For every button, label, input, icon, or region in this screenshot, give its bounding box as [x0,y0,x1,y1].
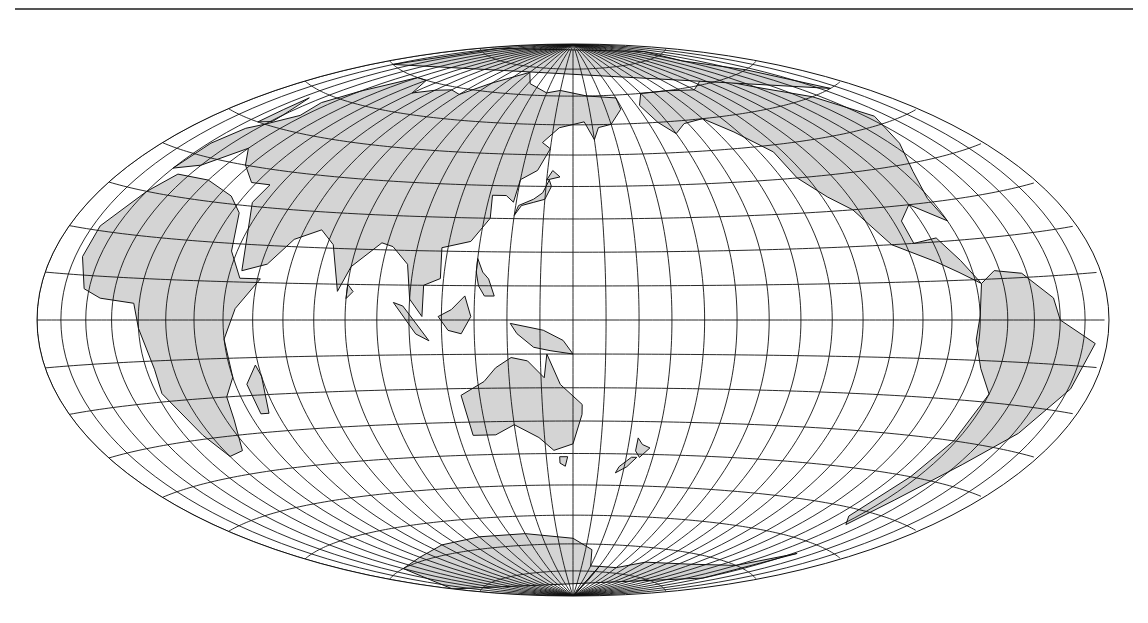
land-tasmania [560,457,568,467]
land-samerica [846,271,1095,525]
land-greenland [393,48,830,88]
land-africa [83,174,261,456]
land-australia [461,354,582,450]
landmasses [83,48,1096,596]
land-sumatra [393,302,429,340]
graticule [37,44,1105,596]
land-borneo [438,296,471,334]
land-namerica [640,77,982,284]
land-newguinea [510,323,573,354]
land-madagascar [247,365,269,414]
parallel-line [229,485,916,531]
land-hokkaido [547,171,560,180]
world-map [0,0,1148,623]
land-philippines [476,258,494,296]
